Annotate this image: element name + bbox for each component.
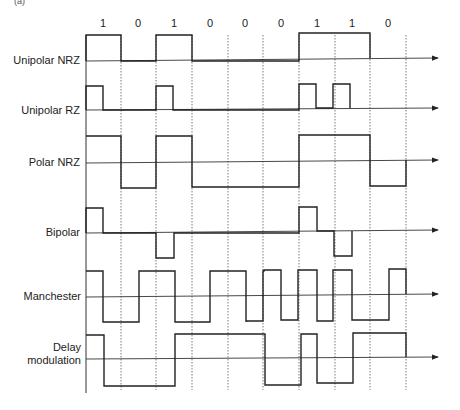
waveform-unipolar-rz — [86, 84, 350, 110]
bit-boundaries — [121, 35, 406, 390]
waveform-bipolar — [86, 207, 352, 258]
waveform-delay-modulation — [86, 333, 406, 386]
waveform-diagram — [0, 0, 460, 410]
